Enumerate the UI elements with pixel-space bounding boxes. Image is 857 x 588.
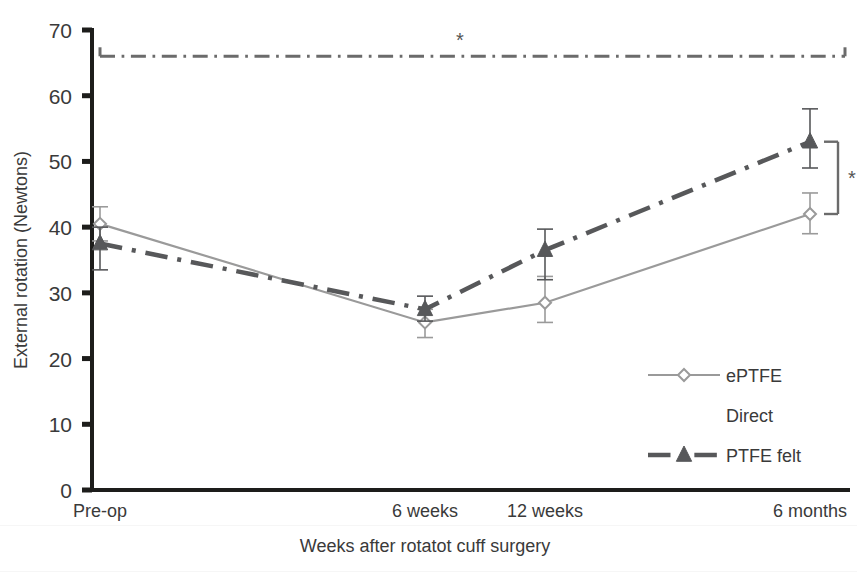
y-axis-tick-label: 10 [49, 413, 72, 436]
x-axis-title: Weeks after rotatot cuff surgery [300, 536, 550, 556]
chart-figure: 010203040506070 External rotation (Newto… [0, 0, 857, 588]
x-axis-category-label: 6 weeks [392, 501, 458, 521]
y-axis-tick-label: 20 [49, 348, 72, 371]
y-axis-title: External rotation (Newtons) [11, 151, 31, 369]
data-point-marker [802, 133, 817, 148]
data-series-layer [92, 109, 818, 338]
legend-item-label: ePTFE [726, 366, 782, 386]
legend-marker-sample [678, 369, 690, 381]
scan-artifact-band [0, 571, 857, 572]
scan-artifact-band [0, 525, 857, 526]
line-chart-canvas: 010203040506070 External rotation (Newto… [0, 0, 857, 588]
legend-marker-sample [676, 446, 691, 461]
y-axis-tick-label: 0 [60, 479, 72, 502]
legend-item-label: Direct [726, 406, 773, 426]
annotation-significance-6months: * [824, 142, 856, 214]
y-axis-tick-label: 40 [49, 216, 72, 239]
series-ptfe-felt [92, 109, 818, 321]
legend-item-label: PTFE felt [726, 446, 801, 466]
significance-asterisk: * [456, 29, 464, 51]
x-axis-category-label: Pre-op [73, 501, 127, 521]
chart-legend: ePTFEDirectPTFE felt [648, 366, 801, 466]
y-axis-tick-labels: 010203040506070 [49, 19, 72, 502]
x-axis-category-label: 6 months [773, 501, 847, 521]
x-axis-category-labels: Pre-op6 weeks12 weeks6 months [73, 501, 847, 521]
legend-item-eptfe[interactable]: ePTFE [648, 366, 782, 386]
legend-item-direct[interactable]: Direct [726, 406, 773, 426]
axes-group: 010203040506070 [49, 19, 850, 502]
legend-item-ptfe-felt[interactable]: PTFE felt [648, 446, 801, 466]
annotation-layer: ** [100, 29, 856, 214]
data-point-marker [804, 208, 816, 220]
y-axis-tick-label: 70 [49, 19, 72, 42]
annotation-significance-top: * [100, 29, 845, 56]
y-axis-tick-label: 60 [49, 85, 72, 108]
series-line [100, 214, 810, 322]
y-axis-tick-label: 30 [49, 282, 72, 305]
x-axis-category-label: 12 weeks [507, 501, 583, 521]
data-point-marker [539, 297, 551, 309]
series-line [100, 142, 810, 310]
data-point-marker [92, 235, 107, 250]
y-axis-tick-label: 50 [49, 150, 72, 173]
significance-asterisk: * [848, 167, 856, 189]
